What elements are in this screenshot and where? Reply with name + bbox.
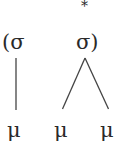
mora-3-label: μ — [100, 120, 114, 141]
mora-1-label: μ — [7, 120, 21, 141]
mora-2-label: μ — [54, 120, 68, 141]
branch-syllable2-mora3 — [85, 58, 109, 109]
branch-syllable2-mora2 — [63, 58, 86, 109]
